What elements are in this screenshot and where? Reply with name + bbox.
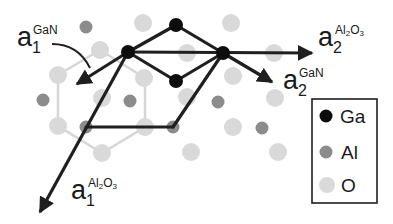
oxygen-atom — [91, 41, 109, 59]
label-a2-gan: a 2 GaN — [283, 67, 333, 101]
label-a1-gan: a 1 GaN — [17, 24, 67, 58]
oxygen-atom — [224, 118, 242, 136]
oxygen-atom — [182, 143, 200, 161]
lattice-diagram: a 1 GaN a 2 Al2O3 a 2 GaN a 1 Al2O3 Ga A… — [0, 0, 393, 224]
gallium-atom — [216, 46, 230, 60]
legend-label-ga: Ga — [340, 107, 365, 126]
unit-cell-bonds — [86, 25, 223, 127]
gallium-atom — [121, 45, 135, 59]
label-a2-al2o3: a 2 Al2O3 — [318, 24, 378, 58]
oxygen-atom — [49, 66, 67, 84]
legend-al-swatch — [320, 146, 333, 159]
oxygen-atom — [266, 89, 284, 107]
legend-label-o: O — [341, 176, 356, 195]
gallium-atom — [169, 74, 183, 88]
aluminum-atom — [37, 94, 50, 107]
oxygen-atom — [224, 67, 242, 85]
aluminum-atom — [256, 122, 269, 135]
oxygen-atom — [135, 69, 153, 87]
legend-label-al: Al — [341, 143, 358, 162]
label-a1-al2o3: a 1 Al2O3 — [71, 177, 131, 211]
oxygen-atom — [222, 14, 240, 32]
oxygen-atom — [93, 144, 111, 162]
gallium-atom — [169, 18, 183, 32]
oxygen-atom — [134, 14, 152, 32]
legend-o-swatch — [319, 177, 335, 193]
aluminum-atom — [212, 96, 225, 109]
aluminum-atom — [80, 21, 93, 34]
oxygen-atom — [269, 143, 287, 161]
aluminum-atom — [124, 95, 137, 108]
oxygen-atoms — [49, 14, 287, 162]
oxygen-atom — [49, 117, 67, 135]
legend-ga-swatch — [320, 110, 333, 123]
